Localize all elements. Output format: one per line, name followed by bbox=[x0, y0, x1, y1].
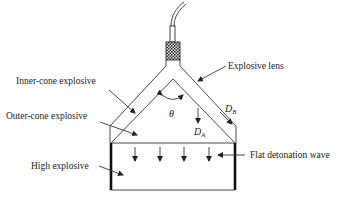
flat-wave-label: Flat detonation wave bbox=[250, 150, 330, 160]
explosive-lens-outline bbox=[110, 60, 236, 143]
theta-symbol: θ bbox=[169, 108, 174, 119]
theta-arc-icon bbox=[162, 95, 183, 100]
outer-cone-label: Outer-cone explosive bbox=[6, 111, 87, 121]
explosive-lens-label: Explosive lens bbox=[228, 61, 284, 71]
high-explosive-label: High explosive bbox=[31, 161, 89, 171]
detonator-tube bbox=[170, 26, 175, 42]
inner-cone-pointer bbox=[109, 90, 135, 113]
db-label: DB bbox=[224, 103, 236, 115]
flat-wave-arrows bbox=[135, 147, 209, 161]
explosive-lens-pointer bbox=[198, 66, 226, 81]
da-label: DA bbox=[193, 126, 205, 138]
outer-cone-pointer bbox=[100, 122, 137, 135]
detonator bbox=[166, 42, 180, 60]
plane-wave-generator-diagram: θ DA DB Explosive lens Inner-cone explos… bbox=[0, 0, 355, 199]
detonator-wire bbox=[171, 2, 186, 26]
high-explosive-block bbox=[111, 143, 235, 190]
inner-cone-label: Inner-cone explosive bbox=[16, 76, 96, 86]
